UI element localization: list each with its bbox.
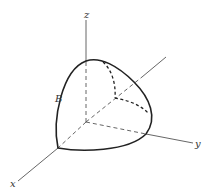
- z-axis-label: z: [83, 9, 90, 20]
- y-axis-label: y: [194, 138, 201, 149]
- x-axis-label: x: [10, 178, 16, 189]
- diagram-canvas: z x y B: [0, 0, 209, 193]
- hidden-curve-vertical: [103, 62, 115, 98]
- back-axis-solid: [142, 57, 166, 77]
- region-label: B: [54, 93, 62, 104]
- y-axis-solid: [146, 134, 193, 143]
- y-axis-hidden: [86, 122, 146, 134]
- x-axis-solid: [18, 148, 58, 181]
- hidden-curve-horizontal: [115, 98, 149, 114]
- x-axis-hidden: [58, 122, 86, 148]
